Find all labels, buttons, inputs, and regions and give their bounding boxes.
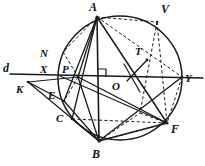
point-label-C: C <box>56 113 63 124</box>
segment-K-P <box>28 77 78 82</box>
point-label-V: V <box>161 3 169 15</box>
geometry-canvas <box>0 0 205 166</box>
point-label-K: K <box>16 84 23 95</box>
dot-E <box>63 100 66 103</box>
line-label-d: d <box>3 62 9 74</box>
point-label-P: P <box>62 64 69 75</box>
point-label-X: X <box>40 64 47 75</box>
dashed-C-F <box>72 119 167 123</box>
geometry-figure: A V N X P T O Y d K E C B F <box>0 0 205 166</box>
dot-A <box>95 15 98 18</box>
point-label-F: F <box>171 123 179 135</box>
point-label-N: N <box>40 48 48 59</box>
point-label-O: O <box>112 81 120 92</box>
dot-B <box>97 139 100 142</box>
point-dots <box>27 15 184 142</box>
segment-E-B <box>64 101 99 141</box>
segment-A-C <box>72 17 97 119</box>
dot-C <box>71 118 74 121</box>
point-label-T: T <box>135 46 142 57</box>
dot-P <box>77 76 80 79</box>
point-label-Y: Y <box>185 73 192 84</box>
dot-V <box>156 21 159 24</box>
dot-K <box>27 81 30 84</box>
point-label-E: E <box>48 90 55 101</box>
point-label-A: A <box>89 1 97 13</box>
dashed-V-bottom <box>140 22 157 113</box>
dot-Y <box>181 76 184 79</box>
segment-A-B <box>97 17 99 141</box>
dot-T <box>146 59 149 62</box>
point-label-B: B <box>92 148 100 160</box>
dashed-V-F <box>157 22 167 123</box>
dot-F <box>165 121 168 124</box>
